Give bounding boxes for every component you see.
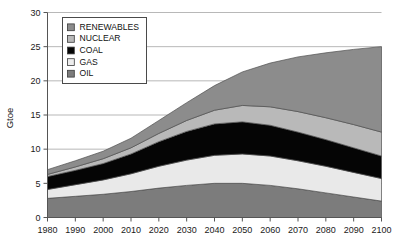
x-tick-label: 2010 [121, 225, 141, 235]
legend-label-oil: OIL [80, 68, 94, 78]
legend-label-gas: GAS [80, 57, 98, 67]
x-tick-label: 2070 [288, 225, 308, 235]
legend-label-renewables: RENEWABLES [80, 22, 140, 32]
y-tick-label: 20 [30, 76, 40, 86]
legend-label-nuclear: NUCLEAR [80, 33, 121, 43]
legend-swatch-coal [68, 47, 75, 54]
legend-swatch-renewables [68, 24, 75, 31]
legend-label-coal: COAL [80, 45, 104, 55]
y-tick-label: 0 [35, 213, 40, 223]
legend-swatch-gas [68, 59, 75, 66]
x-tick-label: 2030 [177, 225, 197, 235]
x-tick-label: 1980 [37, 225, 57, 235]
x-tick-label: 2080 [316, 225, 336, 235]
x-tick-label: 2090 [344, 225, 364, 235]
y-tick-label: 30 [30, 8, 40, 18]
x-tick-label: 2050 [232, 225, 252, 235]
x-tick-label: 2040 [204, 225, 224, 235]
x-tick-label: 2020 [149, 225, 169, 235]
x-tick-label: 2060 [260, 225, 280, 235]
x-tick-label: 2100 [371, 225, 391, 235]
y-tick-label: 15 [30, 110, 40, 120]
stacked-area-chart: 0510152025301980199020002010202020302040… [0, 0, 403, 249]
x-tick-label: 1990 [65, 225, 85, 235]
y-tick-label: 5 [35, 179, 40, 189]
x-tick-label: 2000 [93, 225, 113, 235]
legend-swatch-nuclear [68, 36, 75, 43]
y-tick-label: 10 [30, 144, 40, 154]
chart-canvas: 0510152025301980199020002010202020302040… [0, 0, 403, 249]
y-tick-label: 25 [30, 42, 40, 52]
legend-swatch-oil [68, 70, 75, 77]
y-axis-title: Gtoe [4, 108, 15, 129]
chart-legend: RENEWABLESNUCLEARCOALGASOIL [63, 18, 147, 84]
